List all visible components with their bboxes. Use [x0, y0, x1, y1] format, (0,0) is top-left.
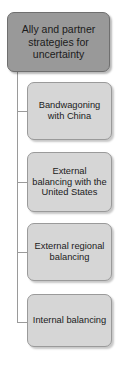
child-node-internal-balancing: Internal balancing: [27, 294, 112, 347]
root-node: Ally and partner strategies for uncertai…: [7, 12, 110, 72]
child-node-label: Bandwagoning with China: [32, 100, 107, 122]
child-node-external-balancing-us: External balancing with the United State…: [27, 152, 112, 212]
root-node-label: Ally and partner strategies for uncertai…: [12, 23, 105, 60]
child-node-external-regional-balancing: External regional balancing: [27, 223, 112, 281]
child-node-label: Internal balancing: [33, 315, 106, 326]
diagram-canvas: Ally and partner strategies for uncertai…: [0, 0, 124, 369]
connector-trunk-line: [17, 72, 18, 323]
child-node-bandwagoning: Bandwagoning with China: [27, 82, 112, 140]
child-node-label: External balancing with the United State…: [32, 166, 107, 199]
child-node-label: External regional balancing: [32, 241, 107, 263]
